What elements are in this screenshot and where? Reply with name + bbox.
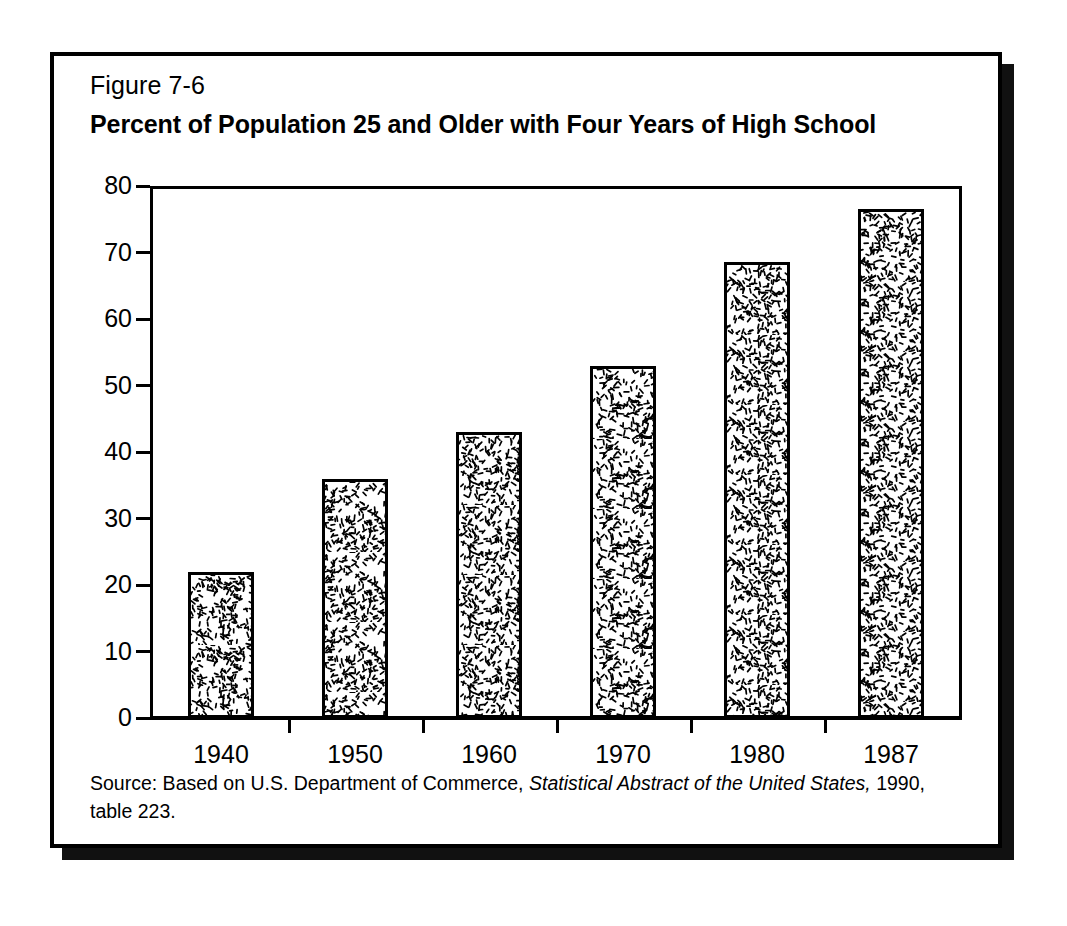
x-axis-tick-label: 1970 — [573, 742, 673, 767]
plot-frame — [150, 186, 962, 718]
y-axis-tick-label: 70 — [62, 240, 132, 265]
x-axis-tick-label: 1980 — [707, 742, 807, 767]
bar — [188, 572, 254, 718]
bar — [456, 432, 522, 718]
y-axis-tick — [136, 384, 150, 387]
x-axis-tick — [690, 720, 693, 733]
x-axis-tick-label: 1987 — [841, 742, 941, 767]
y-axis-tick — [136, 185, 150, 188]
bar — [322, 479, 388, 718]
y-axis-tick-label: 60 — [62, 306, 132, 331]
y-axis-tick — [136, 584, 150, 587]
bar — [724, 262, 790, 718]
y-axis-tick — [136, 318, 150, 321]
x-axis-tick-label: 1960 — [439, 742, 539, 767]
y-axis-tick-label: 30 — [62, 506, 132, 531]
source-italic: Statistical Abstract of the United State… — [529, 772, 871, 794]
y-axis-tick — [136, 717, 150, 720]
x-axis-tick — [556, 720, 559, 733]
source-prefix: Source: Based on U.S. Department of Comm… — [90, 772, 529, 794]
y-axis-tick-label: 50 — [62, 373, 132, 398]
x-axis-tick — [824, 720, 827, 733]
figure-box: Figure 7-6 Percent of Population 25 and … — [50, 52, 1002, 848]
y-axis-tick — [136, 650, 150, 653]
y-axis-tick — [136, 451, 150, 454]
y-axis-tick — [136, 251, 150, 254]
y-axis-tick-label: 40 — [62, 439, 132, 464]
y-axis-tick-label: 0 — [62, 705, 132, 730]
bar — [858, 209, 924, 718]
source-note: Source: Based on U.S. Department of Comm… — [90, 770, 970, 825]
y-axis-tick-label: 20 — [62, 572, 132, 597]
y-axis-tick-label: 10 — [62, 639, 132, 664]
y-axis-tick — [136, 517, 150, 520]
bar — [590, 366, 656, 718]
y-axis-tick-label: 80 — [62, 173, 132, 198]
x-axis-tick — [288, 720, 291, 733]
x-axis-tick — [422, 720, 425, 733]
x-axis-tick-label: 1950 — [305, 742, 405, 767]
x-axis-tick-label: 1940 — [171, 742, 271, 767]
y-axis-labels: 01020304050607080 — [54, 56, 132, 852]
bar-chart: 01020304050607080 1940195019601970198019… — [54, 56, 1006, 852]
